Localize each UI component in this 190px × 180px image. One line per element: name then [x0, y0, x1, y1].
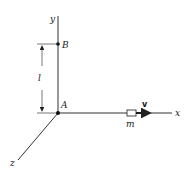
mass-label: m: [126, 119, 135, 129]
y-axis-label: y: [49, 14, 56, 24]
z-axis-label: z: [9, 158, 15, 168]
point-b-label: B: [61, 40, 69, 50]
dimension-label: l: [38, 73, 41, 83]
x-axis-label: x: [175, 108, 180, 118]
point-a-label: A: [60, 100, 68, 110]
particle-mass: [127, 110, 136, 116]
z-axis: [18, 113, 58, 160]
point-b: [56, 42, 60, 46]
diagram-canvas: y x z B A l m v: [0, 0, 190, 180]
velocity-label: v: [142, 100, 148, 109]
point-a: [56, 111, 60, 115]
